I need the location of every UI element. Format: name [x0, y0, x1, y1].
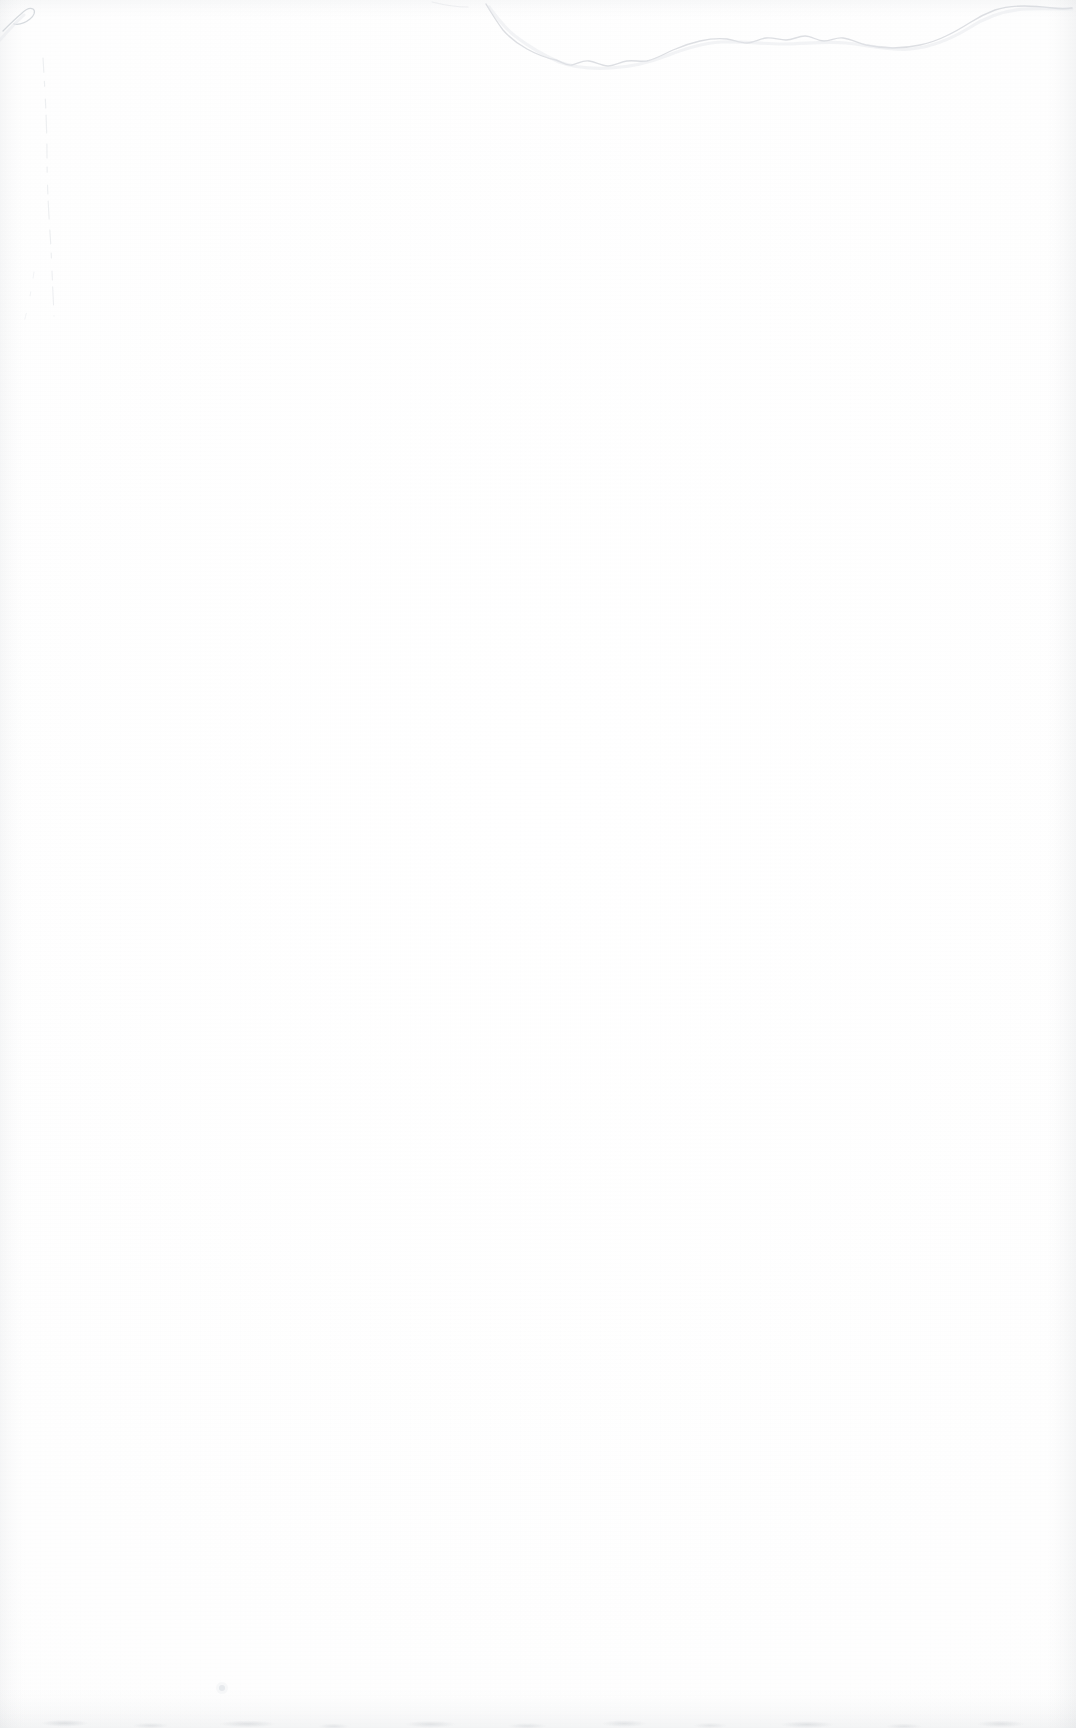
paper-surface: [0, 0, 1076, 1728]
scanned-page: [0, 0, 1076, 1728]
